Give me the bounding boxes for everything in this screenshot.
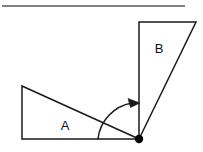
geometry-figure: A B	[0, 0, 203, 152]
triangle-b-label: B	[155, 41, 164, 56]
shared-vertex-dot	[135, 135, 143, 143]
rotation-arrowhead-icon	[128, 99, 140, 108]
triangle-a-shape	[22, 86, 139, 139]
triangle-a-label: A	[61, 118, 70, 133]
figure-canvas: A B	[0, 0, 203, 152]
triangle-b-shape	[139, 22, 196, 139]
